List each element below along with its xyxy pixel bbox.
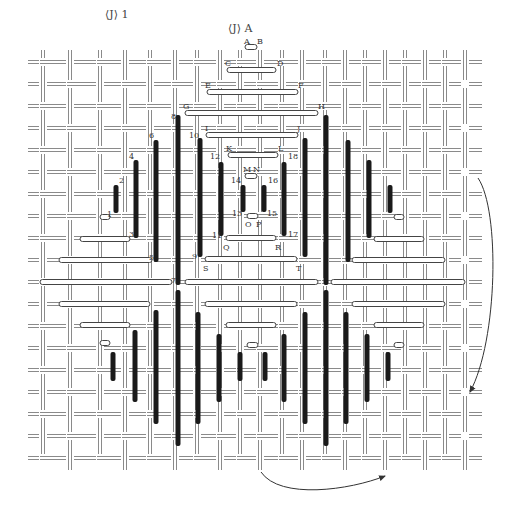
dark-bar xyxy=(134,160,139,238)
light-bar xyxy=(352,302,445,307)
point-label: 2 xyxy=(119,177,124,185)
horizontal-thread xyxy=(28,457,482,460)
point-label: 15 xyxy=(267,210,277,218)
light-bar xyxy=(374,237,424,242)
dark-bar xyxy=(262,185,267,212)
point-label: E xyxy=(205,82,211,90)
point-label: N xyxy=(253,166,260,174)
light-bar xyxy=(394,343,404,348)
dark-bar xyxy=(386,352,391,381)
dark-bar xyxy=(154,310,159,424)
light-bar xyxy=(247,214,258,219)
point-label: C xyxy=(225,60,231,68)
point-label: 10 xyxy=(189,132,199,140)
dark-bar xyxy=(346,140,351,262)
dark-bar xyxy=(344,312,349,424)
vertical-thread xyxy=(99,50,102,454)
light-bar xyxy=(247,343,258,348)
dark-bar xyxy=(303,138,308,257)
horizontal-thread xyxy=(28,391,482,394)
light-bar xyxy=(80,323,130,328)
weave-diagram: ⟨J⟩ 1 ⟨J⟩ A ABCDEFGHIJKLMNOPQRST24681012… xyxy=(0,0,513,515)
point-label: H xyxy=(318,103,325,111)
dark-bar xyxy=(217,334,222,402)
bottom-curved-arrow xyxy=(261,472,385,490)
dark-bar xyxy=(238,352,243,381)
vertical-thread xyxy=(444,50,447,454)
point-label: 14 xyxy=(231,177,241,185)
dark-bar xyxy=(241,185,246,212)
point-label: 11 xyxy=(212,232,222,240)
arrow-group xyxy=(261,178,493,490)
light-bar xyxy=(227,68,276,73)
point-label: S xyxy=(203,265,208,273)
dark-bar xyxy=(111,352,116,381)
right-curved-arrow xyxy=(470,178,493,392)
light-bar xyxy=(59,258,152,263)
dark-bar xyxy=(198,138,203,257)
point-label: D xyxy=(277,60,283,68)
dark-bar xyxy=(388,185,393,213)
point-label: 5 xyxy=(149,254,154,262)
point-label: 6 xyxy=(149,132,154,140)
horizontal-thread xyxy=(28,83,482,86)
point-label: R xyxy=(275,244,281,252)
dark-bar xyxy=(303,312,308,424)
point-label: J xyxy=(297,125,300,133)
horizontal-thread xyxy=(28,149,482,152)
vertical-thread xyxy=(404,50,407,454)
dark-bar xyxy=(176,115,181,285)
horizontal-thread xyxy=(28,193,482,196)
dark-bar xyxy=(263,352,268,381)
horizontal-thread xyxy=(28,413,482,416)
horizontal-thread xyxy=(28,435,482,438)
light-bar xyxy=(206,133,298,138)
weave-grid-svg xyxy=(0,0,513,515)
point-label: A xyxy=(244,38,250,46)
vertical-thread xyxy=(149,50,152,454)
dark-bar xyxy=(324,115,329,285)
light-bar xyxy=(205,257,297,262)
point-label: L xyxy=(278,145,283,153)
point-label: G xyxy=(183,103,189,111)
dark-bar xyxy=(367,160,372,238)
point-label: I xyxy=(205,125,208,133)
light-bar xyxy=(394,215,404,220)
light-bar xyxy=(245,174,257,179)
point-label: 3 xyxy=(129,231,134,239)
point-label: 12 xyxy=(210,153,220,161)
light-bar xyxy=(185,280,318,285)
title-center: ⟨J⟩ A xyxy=(228,23,252,34)
light-bar xyxy=(226,236,276,241)
point-label: 9 xyxy=(192,253,197,261)
point-label: M xyxy=(243,166,251,174)
horizontal-thread xyxy=(28,369,482,372)
point-label: 7 xyxy=(171,277,176,285)
dark-bar xyxy=(324,290,329,446)
light-bar xyxy=(228,153,278,158)
point-label: P xyxy=(256,221,261,229)
point-label: 4 xyxy=(129,153,134,161)
light-bar xyxy=(374,323,424,328)
light-bar xyxy=(352,258,445,263)
dark-bar xyxy=(114,185,119,213)
title-left: ⟨J⟩ 1 xyxy=(105,9,129,20)
point-label: T xyxy=(296,265,301,273)
light-bar xyxy=(59,302,150,307)
light-bar xyxy=(331,280,465,285)
point-label: K xyxy=(226,145,232,153)
dark-bar xyxy=(219,162,224,236)
point-label: O xyxy=(245,221,252,229)
horizontal-thread xyxy=(28,105,482,108)
dark-bar xyxy=(282,162,287,236)
light-bar xyxy=(100,341,110,346)
point-label: 16 xyxy=(268,177,278,185)
point-label: 13 xyxy=(232,210,242,218)
point-label: 8 xyxy=(171,113,176,121)
dark-bar xyxy=(154,140,159,262)
point-label: Q xyxy=(223,244,230,252)
point-label: F xyxy=(298,82,304,90)
light-bar xyxy=(205,302,297,307)
dark-bar xyxy=(133,330,138,402)
light-bar xyxy=(40,280,172,285)
